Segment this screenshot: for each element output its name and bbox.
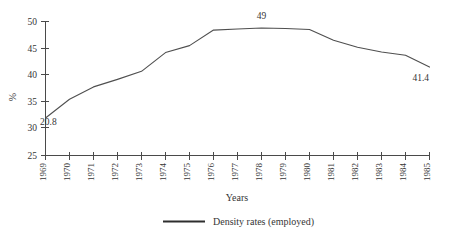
x-tick-label-1985: 1985 (422, 163, 432, 182)
x-tick-label-1984: 1984 (398, 163, 408, 182)
x-tick-label-1975: 1975 (182, 163, 192, 182)
chart-canvas: 50 45 40 35 30 25 % (0, 0, 459, 239)
x-tick-label-1981: 1981 (326, 163, 336, 181)
x-tick-label-1983: 1983 (374, 163, 384, 182)
x-tick-label-1979: 1979 (278, 163, 288, 182)
x-tick-label-1973: 1973 (134, 163, 144, 182)
y-axis-title: % (7, 93, 18, 101)
x-tick-label-1977: 1977 (230, 163, 240, 182)
chart-legend: Density rates (employed) (163, 216, 314, 228)
x-tick-label-1974: 1974 (158, 163, 168, 182)
x-tick-label-1978: 1978 (254, 163, 264, 182)
data-series-line (46, 28, 430, 118)
x-tick-label-1980: 1980 (302, 163, 312, 182)
y-tick-label-45: 45 (28, 44, 38, 54)
x-tick-label-1969: 1969 (38, 163, 48, 182)
legend-label-density-rates: Density rates (employed) (213, 216, 314, 228)
annotation-peak-value: 49 (257, 11, 267, 21)
y-tick-label-40: 40 (28, 70, 38, 80)
y-tick-label-25: 25 (28, 151, 38, 161)
x-tick-label-1971: 1971 (86, 163, 96, 181)
x-tick-label-1976: 1976 (206, 163, 216, 182)
x-tick-label-1972: 1972 (110, 163, 120, 181)
line-chart-figure: 50 45 40 35 30 25 % (0, 0, 459, 239)
y-tick-label-35: 35 (28, 97, 38, 107)
annotation-end-value: 41.4 (412, 73, 429, 83)
x-tick-label-1970: 1970 (62, 163, 72, 182)
y-tick-label-30: 30 (28, 123, 38, 133)
y-axis-tick-labels: 50 45 40 35 30 25 (28, 17, 38, 161)
annotation-start-value: 20.8 (40, 117, 57, 127)
x-axis-title: Years (226, 192, 248, 203)
y-tick-label-50: 50 (28, 17, 38, 27)
x-axis-tick-labels: 1969 1970 1971 1972 1973 1974 1975 1976 … (38, 163, 432, 182)
x-tick-label-1982: 1982 (350, 163, 360, 181)
